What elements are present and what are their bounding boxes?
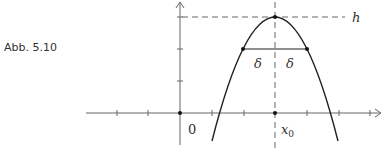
- label-delta-left: δ: [254, 56, 262, 71]
- x-axis: [86, 109, 381, 117]
- label-h: h: [352, 10, 360, 25]
- dashed-guides: [182, 2, 345, 148]
- parabola-diagram: h δ δ 0 x0: [0, 0, 386, 150]
- y-axis: [176, 2, 184, 145]
- label-x0: x0: [281, 122, 294, 139]
- label-origin: 0: [188, 122, 196, 137]
- label-delta-right: δ: [286, 56, 294, 71]
